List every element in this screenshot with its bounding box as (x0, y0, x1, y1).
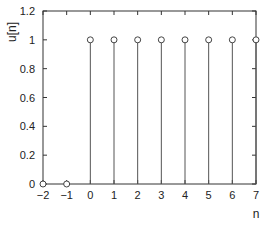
stem-marker (158, 37, 164, 43)
x-axis-ticks: −2−101234567 (37, 11, 259, 201)
x-tick-label: 1 (111, 189, 117, 201)
stem-marker (111, 37, 117, 43)
y-tick-label: 0.8 (20, 63, 35, 75)
stem-marker (64, 181, 70, 187)
x-tick-label: −2 (37, 189, 50, 201)
x-tick-label: 3 (158, 189, 164, 201)
stem-chart: 00.20.40.60.811.2 −2−101234567 u[n] n (0, 0, 266, 227)
stem-marker (206, 37, 212, 43)
plot-border (43, 11, 256, 184)
x-tick-label: 5 (206, 189, 212, 201)
x-tick-label: 4 (182, 189, 188, 201)
y-tick-label: 0.6 (20, 92, 35, 104)
y-tick-label: 0.2 (20, 149, 35, 161)
stem-marker (253, 37, 259, 43)
x-tick-label: −1 (60, 189, 73, 201)
y-tick-label: 1 (29, 34, 35, 46)
y-axis-label: u[n] (5, 22, 19, 42)
x-tick-label: 6 (229, 189, 235, 201)
stem-marker (135, 37, 141, 43)
plot-frame (43, 11, 256, 184)
y-tick-label: 1.2 (20, 5, 35, 17)
x-axis-label: n (253, 207, 260, 221)
x-tick-label: 2 (135, 189, 141, 201)
x-tick-label: 7 (253, 189, 259, 201)
y-tick-label: 0.4 (20, 120, 35, 132)
stem-marker (229, 37, 235, 43)
stem-marker (40, 181, 46, 187)
stem-marker (182, 37, 188, 43)
stem-series (40, 37, 259, 187)
y-tick-label: 0 (29, 178, 35, 190)
stem-marker (87, 37, 93, 43)
x-tick-label: 0 (87, 189, 93, 201)
